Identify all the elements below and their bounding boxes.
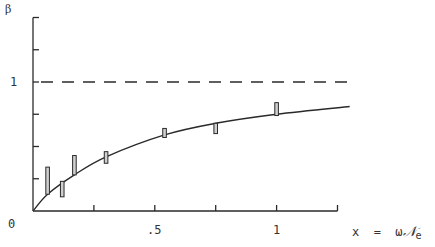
- origin-label: 0: [8, 218, 15, 230]
- x-tick-label-half: .5: [147, 224, 161, 236]
- y-axis-label: β: [5, 4, 11, 15]
- x-axis-label: x = ω𝒩e: [352, 224, 422, 241]
- measurement-error-bars: [46, 103, 279, 197]
- error-bar: [104, 152, 108, 164]
- x-tick-label-1: 1: [273, 224, 280, 236]
- x-axis-script-n: 𝒩: [403, 223, 416, 239]
- error-bar: [60, 181, 64, 196]
- error-bar: [214, 123, 218, 133]
- x-axis-subscript: e: [416, 230, 422, 241]
- y-tick-label-1: 1: [10, 76, 17, 88]
- error-bar: [73, 156, 77, 175]
- error-bar: [46, 167, 50, 194]
- chart-canvas: [0, 0, 435, 247]
- error-bar: [275, 103, 279, 116]
- theory-curve: [33, 107, 350, 211]
- error-bar: [163, 128, 167, 137]
- x-axis-equation: x = ω: [352, 225, 403, 239]
- axes: [33, 18, 338, 212]
